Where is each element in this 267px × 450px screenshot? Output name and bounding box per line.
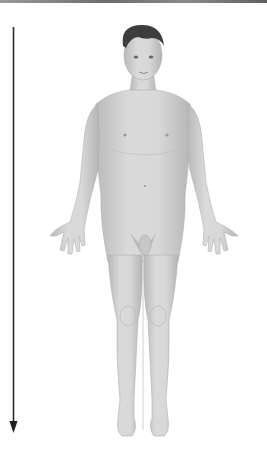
body-texture <box>40 25 250 440</box>
human-figure <box>0 0 267 450</box>
